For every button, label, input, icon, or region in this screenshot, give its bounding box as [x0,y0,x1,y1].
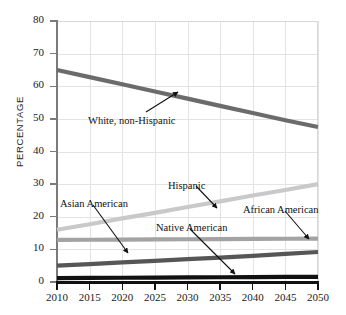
y-tick [50,151,56,152]
y-tick-label: 30 [18,176,44,188]
x-tick [317,284,318,290]
gridline-vertical [253,21,254,282]
y-tick-label: 0 [18,274,44,286]
y-tick [50,249,56,250]
population-projection-line-chart: PERCENTAGE 01020304050607080 20102015202… [0,0,346,315]
gridline-vertical [285,21,286,282]
y-axis-line [56,20,58,283]
gridline-vertical [188,21,189,282]
gridline-vertical [220,21,221,282]
x-tick [187,284,188,290]
annotation-label-native: Native American [156,222,227,233]
x-tick [252,284,253,290]
y-tick-label: 20 [18,209,44,221]
annotation-label-hispanic: Hispanic [168,180,205,191]
x-tick-label: 2050 [296,291,340,303]
plot-area [57,21,318,282]
y-tick-label: 80 [18,13,44,25]
x-tick [154,284,155,290]
x-tick [89,284,90,290]
y-tick [50,86,56,87]
y-tick [50,216,56,217]
x-tick [56,284,57,290]
gridline-vertical [318,21,319,282]
annotation-label-asian: Asian American [60,198,128,209]
y-tick [50,118,56,119]
x-tick [219,284,220,290]
plot-frame-edge [57,21,318,22]
plot-frame-edge [317,21,318,282]
y-tick-label: 40 [18,144,44,156]
y-tick [50,20,56,21]
y-axis-title: PERCENTAGE [14,87,25,177]
gridline-vertical [155,21,156,282]
x-tick [285,284,286,290]
y-tick [50,53,56,54]
gridline-vertical [122,21,123,282]
y-tick [50,281,56,282]
y-tick-label: 10 [18,241,44,253]
y-tick [50,183,56,184]
annotation-label-african: African American [243,204,319,215]
y-tick-label: 50 [18,111,44,123]
annotation-label-white: White, non-Hispanic [88,115,175,126]
y-tick-label: 60 [18,78,44,90]
gridline-vertical [90,21,91,282]
y-tick-label: 70 [18,46,44,58]
x-tick [122,284,123,290]
